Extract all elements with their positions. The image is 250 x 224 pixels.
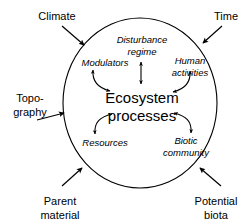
arrow-climate (62, 26, 84, 45)
arrow-time (203, 26, 222, 43)
label-topography-line1: Topo- (16, 92, 44, 104)
label-human-activities-line2: activities (172, 67, 209, 78)
label-modulators: Modulators (82, 57, 129, 68)
ecosystem-diagram: Climate Time Topo- graphy Parent materia… (0, 0, 250, 224)
center-label-line1: Ecosystem (105, 89, 178, 106)
label-disturbance-regime-line2: regime (127, 46, 156, 57)
label-human-activities-line1: Human (175, 55, 206, 66)
label-biotic-community-line2: community (163, 147, 210, 158)
label-disturbance-regime-line1: Disturbance (117, 34, 168, 45)
connector-biotic-community (174, 113, 191, 133)
arrow-parent-material (62, 168, 82, 186)
center-label-line2: processes (108, 107, 176, 124)
connector-modulators (93, 70, 110, 91)
label-potential-biota-line2: biota (204, 209, 229, 221)
label-topography-line2: graphy (13, 106, 47, 118)
label-time: Time (214, 10, 238, 22)
label-parent-material-line1: Parent (44, 195, 76, 207)
label-biotic-community-line1: Biotic (174, 135, 197, 146)
label-resources: Resources (82, 137, 128, 148)
label-parent-material-line2: material (40, 209, 79, 221)
label-climate: Climate (38, 10, 75, 22)
diagram-canvas: Climate Time Topo- graphy Parent materia… (0, 0, 250, 224)
arrow-potential-biota (200, 168, 221, 186)
label-potential-biota-line1: Potential (195, 195, 238, 207)
